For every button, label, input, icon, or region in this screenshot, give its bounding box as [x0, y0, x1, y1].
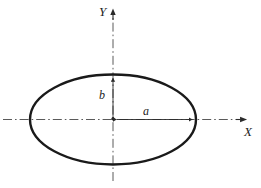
origin-point	[112, 118, 114, 120]
semi-major-axis-label: a	[143, 105, 149, 117]
x-axis-label: X	[244, 125, 252, 138]
figure-canvas	[0, 0, 261, 188]
figure-background	[0, 0, 261, 188]
y-axis-label: Y	[99, 5, 106, 18]
semi-minor-axis-label: b	[99, 89, 105, 101]
ellipse-figure: Y X b a	[0, 0, 261, 188]
